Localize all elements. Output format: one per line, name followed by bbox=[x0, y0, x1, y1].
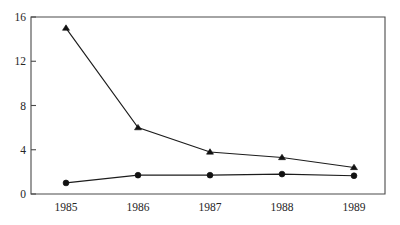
data-point-circle-1985 bbox=[63, 180, 69, 186]
x-tick-label-1987: 1987 bbox=[199, 201, 222, 213]
series-line-triangle bbox=[66, 28, 354, 167]
data-point-triangle-1985 bbox=[63, 25, 70, 30]
data-point-circle-1989 bbox=[351, 173, 357, 179]
y-tick-label-12: 12 bbox=[15, 55, 27, 67]
x-tick-label-1986: 1986 bbox=[127, 201, 150, 213]
y-tick-label-0: 0 bbox=[20, 188, 26, 200]
data-point-circle-1986 bbox=[135, 172, 141, 178]
x-tick-label-1985: 1985 bbox=[55, 201, 78, 213]
y-tick-label-8: 8 bbox=[20, 100, 26, 112]
x-axis-labels: 1985 1986 1987 1988 1989 bbox=[55, 201, 366, 213]
y-axis-ticks bbox=[31, 17, 36, 194]
data-point-circle-1988 bbox=[279, 171, 285, 177]
x-tick-label-1989: 1989 bbox=[343, 201, 366, 213]
data-point-circle-1987 bbox=[207, 172, 213, 178]
y-tick-label-16: 16 bbox=[15, 11, 27, 23]
x-tick-label-1988: 1988 bbox=[271, 201, 294, 213]
plot-frame bbox=[31, 17, 385, 194]
y-tick-label-4: 4 bbox=[20, 144, 26, 156]
series-layer bbox=[63, 25, 358, 186]
y-axis-labels: 0 4 8 12 16 bbox=[15, 11, 27, 200]
chart-canvas: 0 4 8 12 16 1985 1986 1987 1988 1989 bbox=[0, 0, 400, 225]
line-chart: 0 4 8 12 16 1985 1986 1987 1988 1989 bbox=[0, 0, 400, 225]
